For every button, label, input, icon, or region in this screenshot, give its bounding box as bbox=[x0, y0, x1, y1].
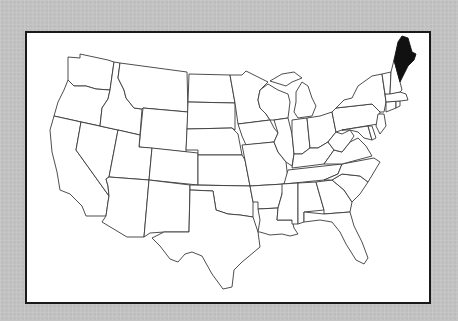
us-map-frame bbox=[25, 31, 431, 304]
state-new-jersey[interactable] bbox=[376, 114, 386, 134]
state-washington[interactable] bbox=[68, 54, 114, 90]
state-connecticut[interactable] bbox=[386, 101, 396, 112]
state-south-dakota[interactable] bbox=[187, 102, 235, 130]
state-wyoming[interactable] bbox=[139, 108, 188, 152]
state-iowa[interactable] bbox=[238, 120, 278, 145]
state-nebraska[interactable] bbox=[186, 128, 242, 155]
state-rhode-island[interactable] bbox=[396, 101, 400, 108]
state-florida[interactable] bbox=[304, 212, 368, 264]
state-new-mexico[interactable] bbox=[144, 180, 190, 237]
us-map bbox=[27, 33, 429, 302]
state-arizona[interactable] bbox=[102, 177, 149, 237]
state-colorado[interactable] bbox=[149, 148, 198, 185]
state-north-dakota[interactable] bbox=[188, 74, 235, 103]
state-kansas[interactable] bbox=[198, 155, 250, 186]
